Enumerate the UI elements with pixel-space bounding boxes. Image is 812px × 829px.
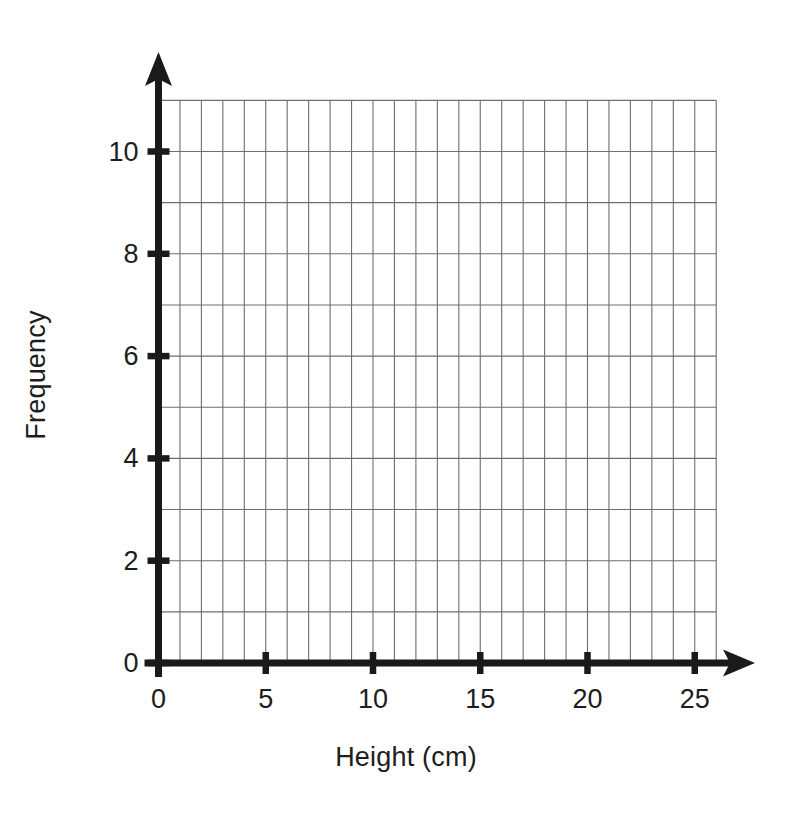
y-axis-title: Frequency — [13, 280, 59, 470]
y-axis-tick-label: 6 — [123, 341, 138, 372]
tick-marks — [148, 152, 695, 675]
y-axis-title-text: Frequency — [21, 310, 52, 439]
y-axis-tick-label: 10 — [108, 136, 138, 167]
x-axis-tick-label: 20 — [572, 684, 602, 715]
x-axis-tick-label: 10 — [358, 684, 388, 715]
y-axis-tick-label: 2 — [123, 545, 138, 576]
x-axis-title: Height (cm) — [0, 742, 812, 773]
y-axis-tick-label: 4 — [123, 443, 138, 474]
x-axis-tick-label: 0 — [151, 684, 166, 715]
x-axis-tick-label: 25 — [680, 684, 710, 715]
y-axis-tick-label: 0 — [123, 648, 138, 679]
x-axis-tick-label: 15 — [465, 684, 495, 715]
grid-lines — [159, 100, 717, 663]
chart-container: Frequency Height (cm) 02468100510152025 — [0, 0, 812, 829]
axes — [145, 52, 756, 677]
y-axis-tick-label: 8 — [123, 238, 138, 269]
x-axis-tick-label: 5 — [258, 684, 273, 715]
